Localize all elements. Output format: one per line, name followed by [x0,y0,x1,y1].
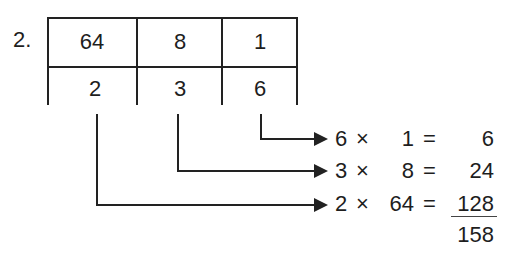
connector-horizontal [96,204,318,206]
arrow-right-icon [314,164,328,178]
arrow-right-icon [314,198,328,212]
connector-vertical [260,114,262,140]
table-top-border [47,17,298,19]
place-value-cell: 1 [217,29,303,55]
equation-digit: 6 [335,126,347,152]
table-middle-border [47,66,298,68]
equation-place-value: 8 [380,158,414,184]
equation-place-value: 64 [380,191,414,217]
connector-vertical [96,114,98,206]
digit-cell: 2 [52,76,138,102]
sum-line [451,216,497,217]
equation-place-value: 1 [380,126,414,152]
equals-sign: = [423,191,436,217]
equation-product: 128 [448,191,494,217]
place-value-cell: 64 [49,29,135,55]
arrow-right-icon [314,132,328,146]
problem-number: 2. [13,27,31,53]
digit-cell: 6 [217,76,303,102]
connector-horizontal [177,170,318,172]
times-sign: × [356,191,369,217]
times-sign: × [356,126,369,152]
place-value-cell: 8 [137,29,223,55]
connector-horizontal [260,138,318,140]
equation-product: 6 [448,126,494,152]
equation-product: 24 [448,158,494,184]
connector-vertical [177,114,179,172]
equals-sign: = [423,126,436,152]
digit-cell: 3 [137,76,223,102]
equation-digit: 2 [335,191,347,217]
times-sign: × [356,158,369,184]
sum-total: 158 [448,222,494,248]
equals-sign: = [423,158,436,184]
equation-digit: 3 [335,158,347,184]
